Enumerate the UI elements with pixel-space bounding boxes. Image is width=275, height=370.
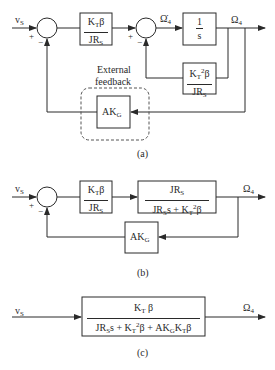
inner-feedback-block: KT2β JRS	[183, 66, 216, 101]
input-label-vs-b: vS	[15, 184, 24, 197]
caption-b: (b)	[137, 267, 149, 278]
sum-plus-sign-b: +	[29, 201, 34, 210]
sum1-plus-sign: +	[29, 32, 34, 41]
output-label-omega4-a: Ω4	[231, 15, 242, 28]
caption-a: (a)	[137, 148, 148, 159]
block-motor-transfer-b: JRS JRSs + KT2β	[138, 184, 216, 219]
external-feedback-annotation-line1: External	[97, 65, 131, 75]
integrator-block: 1 s	[183, 16, 216, 41]
input-label-vs-a: vS	[15, 15, 24, 28]
omega-dot-label: Ω̇4	[160, 14, 171, 27]
block-kt-beta-over-jrs-b: KTβ JRS	[80, 184, 112, 217]
sum2-minus-sign: −	[137, 38, 142, 47]
closed-loop-transfer-block: KT β JRSs + KT2β + AKGKTβ	[82, 302, 205, 337]
caption-c: (c)	[137, 347, 148, 358]
feedback-akg-b: AKG	[130, 232, 150, 245]
output-label-omega4-b: Ω4	[243, 184, 254, 197]
input-label-vs-c: vS	[15, 306, 24, 319]
sum1-minus-sign: −	[38, 38, 43, 47]
output-label-omega4-c: Ω4	[243, 303, 254, 316]
block-kt-beta-over-jrs-a: KTβ JRS	[80, 16, 112, 49]
outer-feedback-akg-a: AKG	[102, 107, 122, 120]
sum2-plus-sign: +	[128, 32, 133, 41]
external-feedback-annotation-line2: feedback	[95, 77, 131, 87]
sum-minus-sign-b: −	[38, 207, 43, 216]
